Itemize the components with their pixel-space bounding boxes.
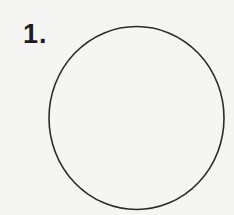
worksheet-page: 1. — [0, 0, 234, 215]
circle-shape — [0, 0, 234, 215]
circle-outline — [49, 27, 224, 210]
